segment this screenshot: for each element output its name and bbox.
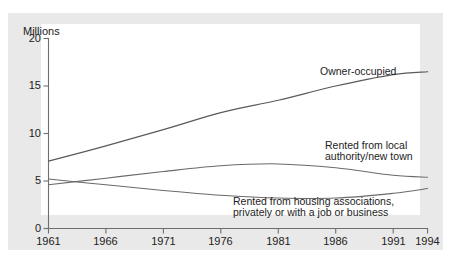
x-axis-ticks xyxy=(49,229,428,234)
y-tick-label-15: 15 xyxy=(7,80,41,91)
y-tick-label-20: 20 xyxy=(7,33,41,44)
y-tick-label-0: 0 xyxy=(7,223,41,234)
y-tick-label-10: 10 xyxy=(7,128,41,139)
series-line-local-authority xyxy=(49,164,428,185)
chart-vector-layer xyxy=(0,0,452,261)
series-label-housing-associations-line2: privately or with a job or business xyxy=(233,207,388,219)
chart-figure: Millions 20 15 10 5 0 1961 1966 1971 197… xyxy=(0,0,452,261)
x-tick-label-1961: 1961 xyxy=(27,236,70,247)
x-tick-label-1966: 1966 xyxy=(84,236,127,247)
x-tick-label-1994: 1994 xyxy=(406,236,449,247)
x-tick-label-1976: 1976 xyxy=(199,236,242,247)
series-label-owner-occupied: Owner-occupied xyxy=(320,66,396,78)
x-tick-label-1981: 1981 xyxy=(257,236,300,247)
y-axis-ticks xyxy=(44,39,49,229)
series-label-local-authority-line2: authority/new town xyxy=(325,151,413,163)
y-tick-label-5: 5 xyxy=(7,175,41,186)
x-tick-label-1986: 1986 xyxy=(314,236,357,247)
x-tick-label-1971: 1971 xyxy=(142,236,185,247)
chart-svg xyxy=(0,0,452,261)
